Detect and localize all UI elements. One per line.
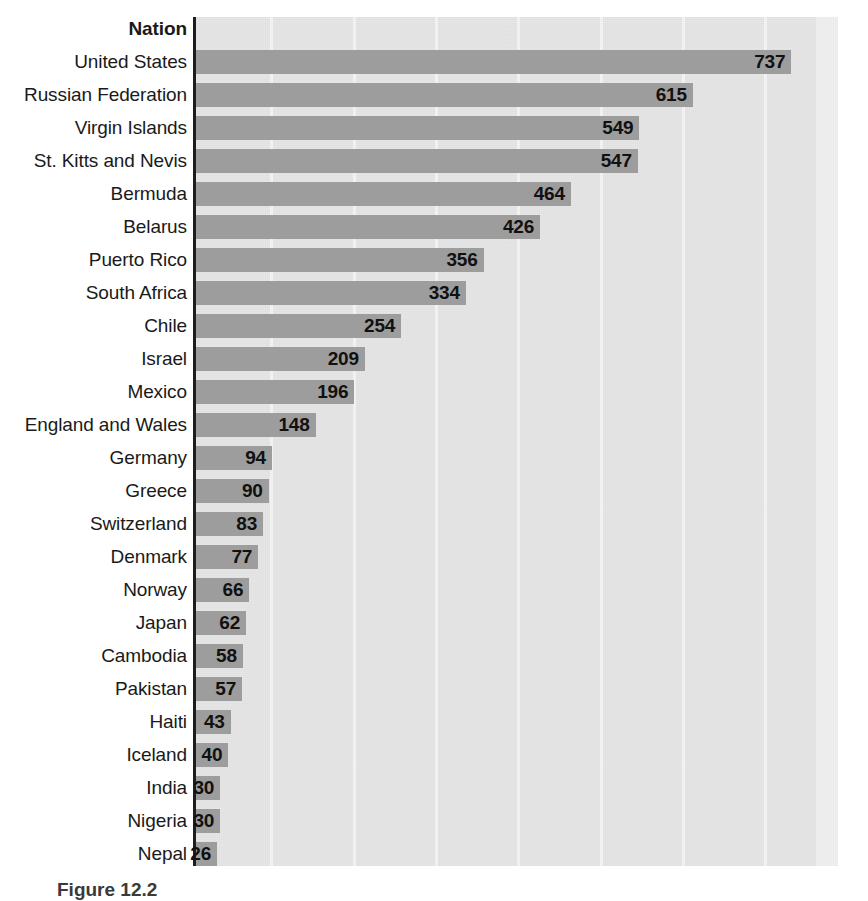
bar-value-label: 77 xyxy=(231,545,252,569)
bar-wrapper: 196 xyxy=(196,380,354,404)
bar-category-label: Bermuda xyxy=(2,182,187,206)
bar-wrapper: 148 xyxy=(196,413,316,437)
bar[interactable] xyxy=(196,281,466,305)
bar-row: Japan62 xyxy=(0,611,868,644)
bar-wrapper: 356 xyxy=(196,248,484,272)
bar-wrapper: 94 xyxy=(196,446,272,470)
bar-row: Puerto Rico356 xyxy=(0,248,868,281)
bar-value-label: 334 xyxy=(429,281,460,305)
bar-row: Pakistan57 xyxy=(0,677,868,710)
bar-value-label: 94 xyxy=(245,446,266,470)
bar-value-label: 426 xyxy=(503,215,534,239)
bar-row: Haiti43 xyxy=(0,710,868,743)
bar-wrapper: 77 xyxy=(196,545,258,569)
bar-category-label: Haiti xyxy=(2,710,187,734)
bar-wrapper: 737 xyxy=(196,50,791,74)
bar-category-label: Nepal xyxy=(2,842,187,866)
bar-category-label: Mexico xyxy=(2,380,187,404)
bar-row: Nigeria30 xyxy=(0,809,868,842)
bar-category-label: England and Wales xyxy=(2,413,187,437)
bar-row: Israel209 xyxy=(0,347,868,380)
bar-row: South Africa334 xyxy=(0,281,868,314)
bar-wrapper: 57 xyxy=(196,677,242,701)
bar-wrapper: 334 xyxy=(196,281,466,305)
bar-value-label: 58 xyxy=(216,644,237,668)
bar-wrapper: 254 xyxy=(196,314,401,338)
bar-row: Greece90 xyxy=(0,479,868,512)
bar-category-label: South Africa xyxy=(2,281,187,305)
bar-row: Chile254 xyxy=(0,314,868,347)
bar-row: Iceland40 xyxy=(0,743,868,776)
bar-wrapper: 58 xyxy=(196,644,243,668)
bar-row: Germany94 xyxy=(0,446,868,479)
bar-row: St. Kitts and Nevis547 xyxy=(0,149,868,182)
bar-value-label: 254 xyxy=(364,314,395,338)
bar-category-label: Japan xyxy=(2,611,187,635)
bar-row: Mexico196 xyxy=(0,380,868,413)
bar[interactable] xyxy=(196,83,693,107)
bar[interactable] xyxy=(196,182,571,206)
bar-category-label: Germany xyxy=(2,446,187,470)
bar-value-label: 90 xyxy=(242,479,263,503)
bar-value-label: 547 xyxy=(601,149,632,173)
bar[interactable] xyxy=(196,149,638,173)
bar-wrapper: 615 xyxy=(196,83,693,107)
bar-value-label: 615 xyxy=(656,83,687,107)
bar-value-label: 737 xyxy=(754,50,785,74)
bar[interactable] xyxy=(196,248,484,272)
bar-category-label: Chile xyxy=(2,314,187,338)
bar-value-label: 356 xyxy=(446,248,477,272)
bar-row: Bermuda464 xyxy=(0,182,868,215)
bar-category-label: Switzerland xyxy=(2,512,187,536)
bar-value-label: 549 xyxy=(602,116,633,140)
bar-wrapper: 83 xyxy=(196,512,263,536)
bar-value-label: 464 xyxy=(534,182,565,206)
bar-wrapper: 26 xyxy=(196,842,217,866)
bar-category-label: St. Kitts and Nevis xyxy=(2,149,187,173)
bar-category-label: Greece xyxy=(2,479,187,503)
bar-category-label: Russian Federation xyxy=(2,83,187,107)
bar-row: Switzerland83 xyxy=(0,512,868,545)
bar-value-label: 62 xyxy=(219,611,240,635)
bar-category-label: India xyxy=(2,776,187,800)
bar-wrapper: 40 xyxy=(196,743,228,767)
bar-value-label: 209 xyxy=(328,347,359,371)
bar[interactable] xyxy=(196,50,791,74)
bar-row: Denmark77 xyxy=(0,545,868,578)
chart-header-row: Nation xyxy=(0,17,868,50)
bar-wrapper: 547 xyxy=(196,149,638,173)
bar-category-label: United States xyxy=(2,50,187,74)
bar-value-label: 40 xyxy=(202,743,223,767)
bar-row: England and Wales148 xyxy=(0,413,868,446)
bar[interactable] xyxy=(196,215,540,239)
bar-wrapper: 30 xyxy=(196,776,220,800)
bar-value-label: 43 xyxy=(204,710,225,734)
bar-row: Nepal26 xyxy=(0,842,868,875)
bar-value-label: 196 xyxy=(317,380,348,404)
figure-caption: Figure 12.2 xyxy=(57,879,157,901)
bar-row: Virgin Islands549 xyxy=(0,116,868,149)
bar-wrapper: 30 xyxy=(196,809,220,833)
bar-category-label: Norway xyxy=(2,578,187,602)
bar-value-label: 26 xyxy=(190,842,211,866)
bar-category-label: Nigeria xyxy=(2,809,187,833)
bar-value-label: 148 xyxy=(278,413,309,437)
bar-category-label: Iceland xyxy=(2,743,187,767)
bar-category-label: Israel xyxy=(2,347,187,371)
bar-category-label: Puerto Rico xyxy=(2,248,187,272)
bar-wrapper: 209 xyxy=(196,347,365,371)
bar-value-label: 30 xyxy=(193,809,214,833)
bar-value-label: 57 xyxy=(215,677,236,701)
bar-category-label: Pakistan xyxy=(2,677,187,701)
bar-value-label: 30 xyxy=(193,776,214,800)
bar-category-label: Denmark xyxy=(2,545,187,569)
bar-row: Russian Federation615 xyxy=(0,83,868,116)
axis-title-nation: Nation xyxy=(2,17,187,41)
bar-wrapper: 62 xyxy=(196,611,246,635)
bar-row: India30 xyxy=(0,776,868,809)
bar-category-label: Belarus xyxy=(2,215,187,239)
bar-row: Cambodia58 xyxy=(0,644,868,677)
bar-row: Norway66 xyxy=(0,578,868,611)
bar[interactable] xyxy=(196,116,639,140)
